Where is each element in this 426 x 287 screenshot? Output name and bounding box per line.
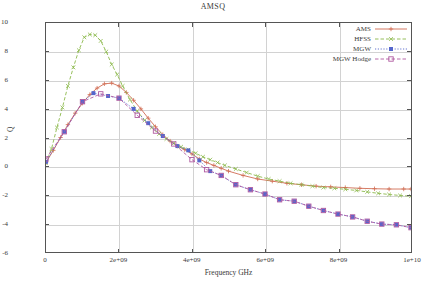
data-point-marker <box>219 166 223 170</box>
data-point-marker <box>110 63 114 67</box>
data-point-marker <box>389 27 393 31</box>
legend-label: AMS <box>356 25 374 33</box>
series-line <box>46 93 411 228</box>
y-tick-mark <box>45 224 49 225</box>
legend-label: MGW Hodge <box>333 55 374 63</box>
data-point-marker <box>115 73 119 77</box>
y-tick-label: 8 <box>0 47 8 55</box>
data-point-marker <box>128 98 132 102</box>
data-point-marker <box>110 81 114 85</box>
data-point-marker <box>226 169 230 173</box>
x-axis-label: Frequency GHz <box>45 268 412 277</box>
data-point-marker <box>389 47 393 51</box>
y-tick-mark <box>45 109 49 110</box>
legend-label: HFSS <box>354 35 374 43</box>
data-point-marker <box>204 160 208 164</box>
legend: AMSHFSSMGWMGW Hodge <box>300 24 408 64</box>
y-tick-mark <box>407 138 411 139</box>
y-tick-mark <box>407 195 411 196</box>
data-point-marker <box>186 148 190 152</box>
x-tick-mark <box>192 249 193 253</box>
legend-label: MGW <box>353 45 374 53</box>
series-ams <box>46 81 411 191</box>
data-point-marker <box>402 187 406 191</box>
y-tick-mark <box>45 166 49 167</box>
data-point-marker <box>194 151 198 155</box>
y-tick-mark <box>407 224 411 225</box>
data-point-marker <box>223 164 227 168</box>
chart-screenshot: AMSQ -6-4-20246810 02e+094e+096e+098e+09… <box>0 0 426 287</box>
x-tick-label: 2e+09 <box>98 256 138 264</box>
data-point-marker <box>46 160 48 164</box>
x-tick-mark <box>118 23 119 27</box>
series-line <box>46 94 411 228</box>
data-point-marker <box>212 163 216 167</box>
data-point-marker <box>263 192 267 196</box>
y-tick-mark <box>45 195 49 196</box>
x-tick-label: 6e+09 <box>245 256 285 264</box>
y-tick-mark <box>45 138 49 139</box>
data-point-marker <box>358 186 362 190</box>
x-tick-mark <box>192 23 193 27</box>
x-tick-mark <box>265 249 266 253</box>
x-tick-mark <box>265 23 266 27</box>
y-tick-label: 10 <box>0 18 8 26</box>
data-point-marker <box>121 84 125 88</box>
y-tick-label: -2 <box>0 191 8 199</box>
legend-item-hfss[interactable]: HFSS <box>300 34 408 44</box>
data-point-marker <box>99 39 103 43</box>
data-point-marker <box>387 187 391 191</box>
x-tick-label: 0 <box>25 256 65 264</box>
y-tick-label: -4 <box>0 220 8 228</box>
series-mgw <box>46 91 411 230</box>
y-tick-label: 6 <box>0 76 8 84</box>
data-point-marker <box>208 158 212 162</box>
y-tick-label: -6 <box>0 249 8 257</box>
legend-item-ams[interactable]: AMS <box>300 24 408 34</box>
data-point-marker <box>104 50 108 54</box>
legend-line-sample <box>374 44 408 54</box>
data-point-marker <box>241 173 245 177</box>
data-point-marker <box>216 161 220 165</box>
y-tick-label: 4 <box>0 105 8 113</box>
y-tick-mark <box>407 166 411 167</box>
x-tick-label: 4e+09 <box>172 256 212 264</box>
data-point-marker <box>372 187 376 191</box>
legend-line-sample <box>374 54 408 64</box>
series-mgw-hodge <box>46 92 411 230</box>
y-tick-mark <box>45 51 49 52</box>
data-point-marker <box>201 155 205 159</box>
y-tick-label: 2 <box>0 134 8 142</box>
y-tick-mark <box>407 109 411 110</box>
y-tick-mark <box>407 80 411 81</box>
x-tick-mark <box>339 249 340 253</box>
y-axis-label: Q <box>6 127 15 132</box>
x-tick-label: 8e+09 <box>319 256 359 264</box>
legend-line-sample <box>374 24 408 34</box>
x-tick-label: 1e+10 <box>392 256 426 264</box>
data-point-marker <box>409 187 411 191</box>
data-point-marker <box>197 158 201 162</box>
data-point-marker <box>102 82 106 86</box>
data-point-marker <box>91 91 95 95</box>
data-point-marker <box>82 35 86 39</box>
data-point-marker <box>132 107 136 111</box>
chart-title: AMSQ <box>0 2 426 11</box>
legend-line-sample <box>374 34 408 44</box>
legend-item-mgw-hodge[interactable]: MGW Hodge <box>300 54 408 64</box>
y-tick-label: 0 <box>0 162 8 170</box>
y-tick-mark <box>45 80 49 81</box>
legend-item-mgw[interactable]: MGW <box>300 44 408 54</box>
x-tick-mark <box>118 249 119 253</box>
